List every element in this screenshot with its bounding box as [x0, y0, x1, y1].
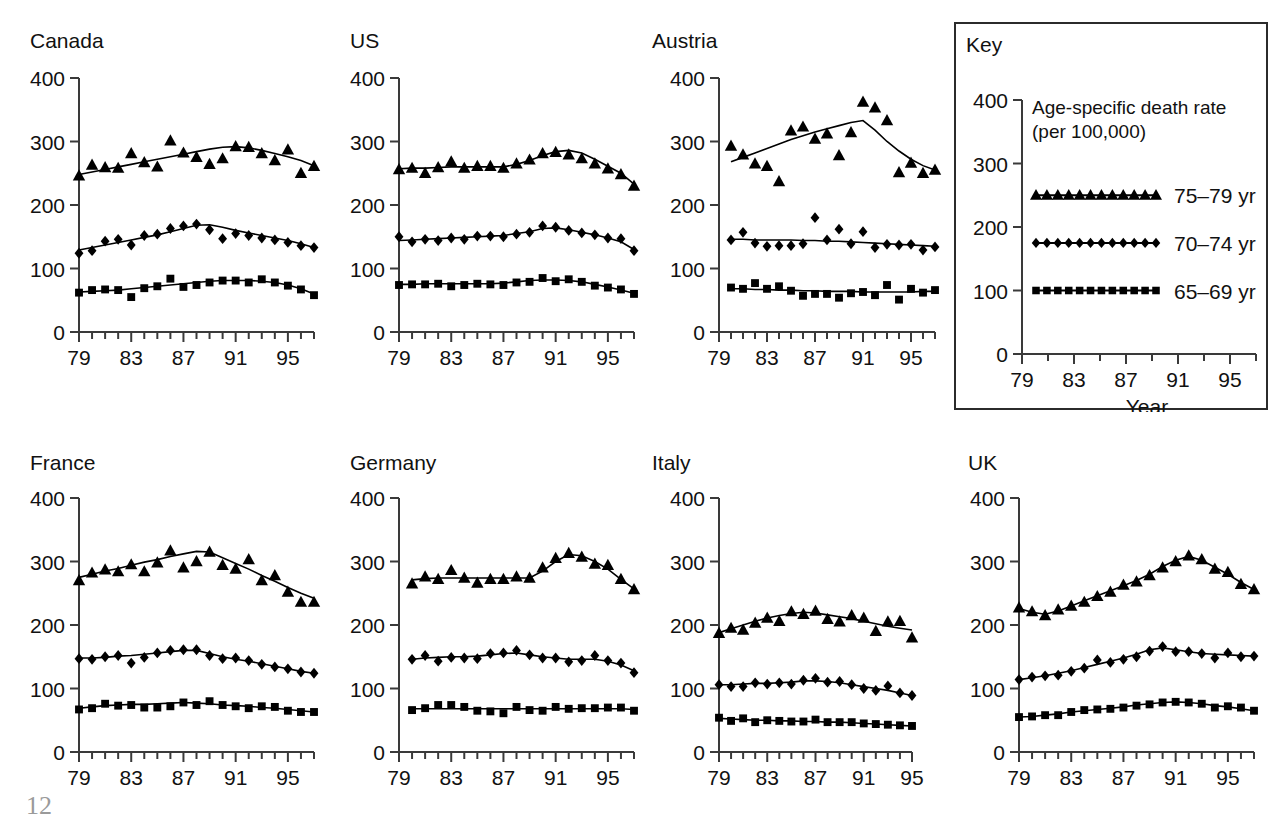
svg-text:83: 83: [120, 346, 143, 369]
svg-text:200: 200: [670, 614, 705, 637]
svg-text:91: 91: [224, 766, 247, 789]
svg-text:200: 200: [30, 194, 65, 217]
svg-text:79: 79: [387, 346, 410, 369]
svg-text:95: 95: [899, 346, 922, 369]
panel-title-france: France: [30, 452, 95, 473]
svg-text:83: 83: [756, 766, 779, 789]
svg-text:87: 87: [492, 346, 515, 369]
svg-text:300: 300: [973, 153, 1008, 176]
svg-text:300: 300: [350, 131, 385, 154]
svg-text:200: 200: [30, 614, 65, 637]
svg-text:300: 300: [670, 131, 705, 154]
svg-text:0: 0: [53, 741, 65, 764]
svg-text:300: 300: [30, 131, 65, 154]
svg-text:0: 0: [693, 741, 705, 764]
svg-text:200: 200: [350, 614, 385, 637]
key-axes: 40030020010007983879195Year75–79 yr70–74…: [956, 24, 1270, 412]
svg-text:100: 100: [350, 258, 385, 281]
svg-text:400: 400: [350, 487, 385, 510]
svg-text:91: 91: [544, 766, 567, 789]
svg-text:79: 79: [1007, 766, 1030, 789]
svg-text:400: 400: [670, 487, 705, 510]
svg-text:83: 83: [1060, 766, 1083, 789]
svg-text:83: 83: [1062, 368, 1085, 391]
svg-text:87: 87: [1112, 766, 1135, 789]
svg-text:87: 87: [803, 346, 826, 369]
svg-text:95: 95: [596, 766, 619, 789]
svg-text:87: 87: [172, 346, 195, 369]
svg-text:95: 95: [596, 346, 619, 369]
svg-text:100: 100: [30, 678, 65, 701]
svg-text:400: 400: [30, 487, 65, 510]
svg-text:91: 91: [544, 346, 567, 369]
panel-title-canada: Canada: [30, 30, 104, 51]
svg-text:95: 95: [1216, 766, 1239, 789]
svg-text:100: 100: [350, 678, 385, 701]
svg-text:65–69 yr: 65–69 yr: [1174, 280, 1256, 303]
svg-text:0: 0: [53, 321, 65, 344]
svg-text:0: 0: [996, 343, 1008, 366]
svg-text:95: 95: [1218, 368, 1241, 391]
svg-text:79: 79: [1010, 368, 1033, 391]
svg-text:87: 87: [804, 766, 827, 789]
svg-text:75–79 yr: 75–79 yr: [1174, 184, 1256, 207]
panel-title-us: US: [350, 30, 379, 51]
svg-text:Year: Year: [1126, 395, 1168, 412]
svg-text:0: 0: [993, 741, 1005, 764]
panel-title-italy: Italy: [652, 452, 691, 473]
svg-text:95: 95: [276, 766, 299, 789]
svg-text:91: 91: [1164, 766, 1187, 789]
svg-text:79: 79: [707, 766, 730, 789]
svg-text:300: 300: [350, 551, 385, 574]
svg-text:87: 87: [1114, 368, 1137, 391]
svg-text:79: 79: [67, 766, 90, 789]
svg-text:95: 95: [900, 766, 923, 789]
svg-text:91: 91: [852, 766, 875, 789]
svg-text:87: 87: [492, 766, 515, 789]
svg-text:200: 200: [973, 216, 1008, 239]
svg-text:95: 95: [276, 346, 299, 369]
panel-title-austria: Austria: [652, 30, 717, 51]
svg-text:300: 300: [970, 551, 1005, 574]
panel-title-germany: Germany: [350, 452, 436, 473]
svg-text:83: 83: [440, 346, 463, 369]
svg-text:400: 400: [973, 89, 1008, 112]
panel-title-uk: UK: [968, 452, 997, 473]
svg-text:83: 83: [120, 766, 143, 789]
svg-text:400: 400: [350, 67, 385, 90]
svg-text:100: 100: [670, 258, 705, 281]
figure-caption-partial: 12: [26, 791, 52, 818]
svg-text:400: 400: [30, 67, 65, 90]
svg-text:400: 400: [670, 67, 705, 90]
svg-text:91: 91: [1166, 368, 1189, 391]
svg-text:100: 100: [670, 678, 705, 701]
svg-text:0: 0: [693, 321, 705, 344]
svg-text:79: 79: [67, 346, 90, 369]
svg-text:100: 100: [30, 258, 65, 281]
svg-text:200: 200: [670, 194, 705, 217]
svg-text:100: 100: [970, 678, 1005, 701]
svg-text:79: 79: [387, 766, 410, 789]
svg-text:200: 200: [350, 194, 385, 217]
svg-text:100: 100: [973, 280, 1008, 303]
legend-key-box: Key Age-specific death rate (per 100,000…: [954, 22, 1268, 410]
svg-text:83: 83: [440, 766, 463, 789]
svg-text:87: 87: [172, 766, 195, 789]
svg-text:83: 83: [755, 346, 778, 369]
svg-text:0: 0: [373, 321, 385, 344]
svg-text:70–74 yr: 70–74 yr: [1174, 232, 1256, 255]
svg-text:200: 200: [970, 614, 1005, 637]
svg-text:91: 91: [224, 346, 247, 369]
svg-text:400: 400: [970, 487, 1005, 510]
svg-text:300: 300: [30, 551, 65, 574]
svg-text:79: 79: [707, 346, 730, 369]
svg-text:300: 300: [670, 551, 705, 574]
svg-text:91: 91: [851, 346, 874, 369]
svg-text:0: 0: [373, 741, 385, 764]
